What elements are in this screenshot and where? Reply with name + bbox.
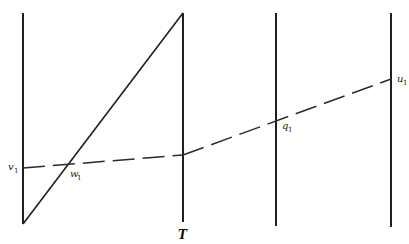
dashed-segment-2 <box>183 79 391 155</box>
label-u1-sub: 1 <box>403 79 407 87</box>
diagonal-line <box>23 13 183 224</box>
label-T: T <box>178 228 188 242</box>
label-q1-sub: 1 <box>288 126 292 134</box>
label-w1: w 1 <box>70 168 81 182</box>
label-v1-sub: 1 <box>14 167 18 175</box>
label-v1: v 1 <box>8 161 18 175</box>
diagram-canvas: v 1 w 1 q 1 u 1 T <box>0 0 409 244</box>
label-w1-sub: 1 <box>77 174 81 182</box>
label-q1: q 1 <box>282 120 292 134</box>
dashed-segment-1 <box>23 155 183 168</box>
label-u1: u 1 <box>397 73 407 87</box>
